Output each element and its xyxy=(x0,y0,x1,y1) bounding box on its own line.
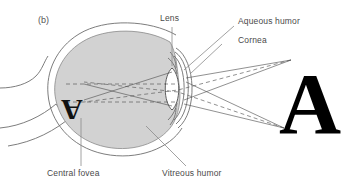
label-central-fovea: Central fovea xyxy=(47,168,100,178)
eye-optics-figure: A A xyxy=(0,0,355,187)
label-cornea: Cornea xyxy=(238,35,267,45)
label-aqueous-humor: Aqueous humor xyxy=(238,16,300,26)
retinal-image-letter-group: A xyxy=(61,94,83,127)
retinal-image-letter: A xyxy=(61,94,83,127)
panel-tag: (b) xyxy=(38,15,49,25)
external-letter: A xyxy=(279,56,341,152)
label-lens: Lens xyxy=(160,13,179,23)
external-letter-group: A xyxy=(279,56,341,152)
lens-shape xyxy=(165,68,179,110)
vitreous-body-group xyxy=(55,31,180,148)
vitreous-humor-shape xyxy=(55,31,180,148)
label-vitreous-humor: Vitreous humor xyxy=(162,168,222,178)
crystalline-lens-group xyxy=(165,68,179,110)
